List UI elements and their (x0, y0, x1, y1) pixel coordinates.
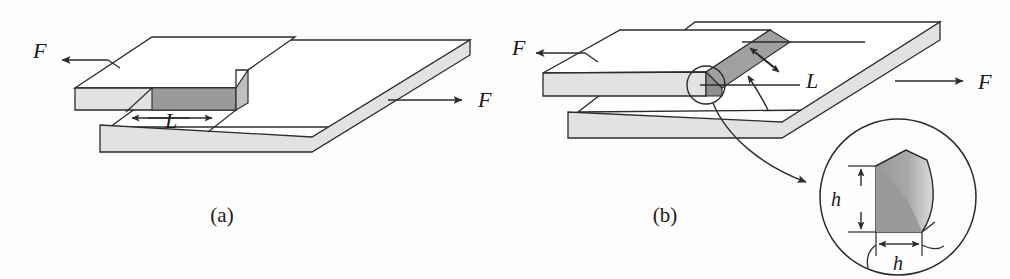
label-force-left-b: F (511, 35, 526, 60)
upper-plate-front-edge-b (543, 72, 706, 96)
weld-overlap-region (152, 88, 236, 110)
label-length-L-a: L (164, 108, 177, 133)
label-length-L-b: L (805, 68, 818, 93)
label-force-right-a: F (477, 87, 492, 112)
label-weld-size-horizontal: h (893, 252, 903, 274)
panel-caption-a: (a) (210, 203, 233, 227)
figure-lap-joint-weld: F F L (a) (0, 0, 1010, 279)
label-weld-size-vertical: h (831, 188, 841, 210)
label-force-left-a: F (32, 38, 47, 63)
weld-detail-inset: h h (820, 119, 976, 275)
label-force-right-b: F (977, 69, 992, 94)
panel-caption-b: (b) (653, 203, 678, 227)
